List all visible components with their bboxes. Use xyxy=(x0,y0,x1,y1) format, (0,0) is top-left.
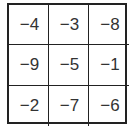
grid-cell: −2 xyxy=(9,86,49,126)
grid-cell: −1 xyxy=(89,45,129,86)
grid-cell: −9 xyxy=(9,45,49,86)
grid-cell: −3 xyxy=(49,5,89,45)
grid-cell: −5 xyxy=(49,45,89,86)
grid-cell: −7 xyxy=(49,86,89,126)
grid-cell: −8 xyxy=(89,5,129,45)
number-grid: −4 −3 −8 −9 −5 −1 −2 −7 −6 xyxy=(7,3,127,124)
grid-cell: −6 xyxy=(89,86,129,126)
grid-cell: −4 xyxy=(9,5,49,45)
